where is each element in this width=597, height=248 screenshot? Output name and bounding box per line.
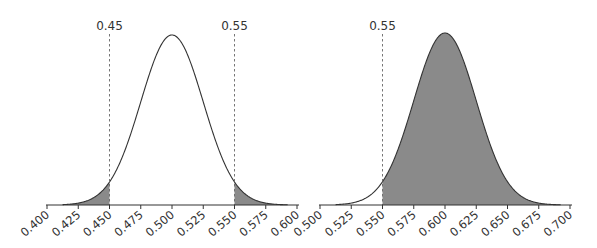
x-tick-label: 0.550 (205, 208, 239, 240)
x-tick-label: 0.425 (49, 208, 83, 240)
x-tick-label: 0.575 (236, 208, 270, 240)
x-tick-label: 0.575 (384, 208, 418, 240)
x-tick-label: 0.500 (143, 208, 177, 240)
density-curve (63, 35, 288, 205)
x-tick-label: 0.525 (174, 208, 208, 240)
x-tick-label: 0.675 (509, 208, 543, 240)
shaded-region (383, 33, 561, 205)
x-tick-label: 0.625 (447, 208, 481, 240)
chart-two-tailed: 0.450.550.4000.4250.4500.4750.5000.5250.… (18, 19, 302, 239)
reference-line-label: 0.45 (96, 19, 123, 33)
x-tick-label: 0.550 (353, 208, 387, 240)
left-normal-distribution-chart: 0.450.550.4000.4250.4500.4750.5000.5250.… (0, 0, 597, 248)
x-tick-label: 0.450 (80, 208, 114, 240)
chart-one-tailed: 0.550.5000.5250.5500.5750.6000.6250.6500… (291, 19, 575, 239)
x-tick-label: 0.400 (18, 208, 52, 240)
x-tick-label: 0.650 (478, 208, 512, 240)
x-tick-label: 0.700 (541, 208, 575, 240)
x-tick-label: 0.525 (322, 208, 356, 240)
x-tick-label: 0.475 (111, 208, 145, 240)
reference-line-label: 0.55 (369, 19, 396, 33)
reference-line-label: 0.55 (221, 19, 248, 33)
x-tick-label: 0.600 (416, 208, 450, 240)
